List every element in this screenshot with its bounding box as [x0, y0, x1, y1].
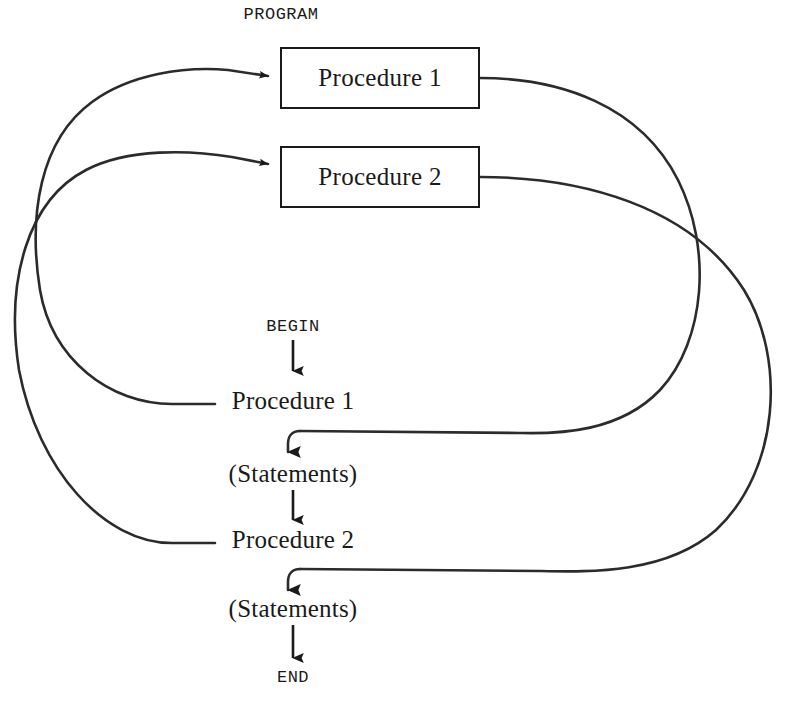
- flow-label-statements-2: (Statements): [229, 595, 358, 623]
- flow-label-begin: BEGIN: [266, 317, 320, 336]
- call-edge-proc1: [36, 69, 268, 404]
- flow-label-call-procedure-1[interactable]: Procedure 1: [232, 387, 354, 415]
- program-flow-diagram: PROGRAM Procedure 1 Procedure 2 BEGIN Pr…: [0, 0, 787, 711]
- procedure-1-box[interactable]: Procedure 1: [280, 47, 480, 109]
- return-edge-proc2: [288, 177, 771, 590]
- flow-label-call-procedure-2[interactable]: Procedure 2: [232, 526, 354, 554]
- flow-label-statements-1: (Statements): [229, 460, 358, 488]
- flow-label-end: END: [277, 668, 309, 687]
- procedure-2-box[interactable]: Procedure 2: [280, 146, 480, 208]
- program-title: PROGRAM: [244, 5, 319, 24]
